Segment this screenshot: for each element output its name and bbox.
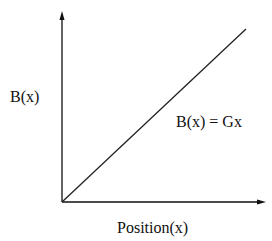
x-axis-arrow-icon: [257, 200, 266, 205]
y-axis-label: B(x): [10, 88, 39, 106]
equation-annotation: B(x) = Gx: [176, 113, 242, 131]
y-axis-arrow-icon: [60, 11, 65, 20]
x-axis-label: Position(x): [117, 219, 188, 237]
